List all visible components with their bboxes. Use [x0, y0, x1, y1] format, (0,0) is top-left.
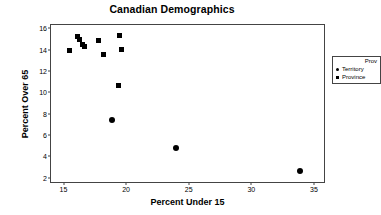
y-axis-tick-label: 10	[17, 89, 51, 96]
x-axis-tick-label: 25	[185, 186, 193, 193]
y-axis-tick-label: 14	[17, 46, 51, 53]
y-axis-tick-label: 2	[17, 174, 51, 181]
chart-title: Canadian Demographics	[0, 3, 344, 15]
data-point-territory	[297, 168, 303, 174]
x-axis-tick-mark	[313, 182, 314, 185]
y-axis-tick-label: 16	[17, 25, 51, 32]
y-axis-tick-label: 8	[17, 110, 51, 117]
legend-title: Prov	[335, 58, 378, 65]
y-axis-tick-mark	[48, 156, 51, 157]
y-axis-tick-mark	[48, 70, 51, 71]
x-axis-tick-mark	[63, 182, 64, 185]
x-axis-tick-label: 35	[310, 186, 318, 193]
legend: Prov Territory Province	[332, 56, 381, 84]
y-axis-tick-label: 12	[17, 67, 51, 74]
legend-label-territory: Territory	[342, 65, 364, 73]
data-point-province	[96, 38, 101, 43]
legend-item-territory[interactable]: Territory	[335, 65, 378, 73]
y-axis-tick-label: 4	[17, 153, 51, 160]
data-point-province	[67, 48, 72, 53]
plot-frame: Prov Territory Province 2468101214161520…	[50, 24, 325, 183]
data-point-territory	[109, 117, 115, 123]
x-axis-tick-label: 30	[247, 186, 255, 193]
square-marker-icon	[336, 76, 339, 79]
x-axis-label: Percent Under 15	[50, 197, 325, 207]
y-axis-tick-mark	[48, 177, 51, 178]
y-axis-tick-mark	[48, 113, 51, 114]
plot-area	[51, 25, 324, 182]
x-axis-tick-mark	[251, 182, 252, 185]
data-point-province	[101, 52, 106, 57]
legend-label-province: Province	[342, 73, 365, 81]
circle-marker-icon	[336, 68, 339, 71]
y-axis-tick-mark	[48, 135, 51, 136]
y-axis-label-text: Percent Over 65	[20, 69, 30, 138]
data-point-territory	[173, 145, 179, 151]
data-point-province	[117, 33, 122, 38]
y-axis-tick-mark	[48, 92, 51, 93]
x-axis-tick-label: 20	[122, 186, 130, 193]
y-axis-tick-mark	[48, 49, 51, 50]
x-axis-tick-mark	[188, 182, 189, 185]
y-axis-tick-mark	[48, 28, 51, 29]
x-axis-tick-mark	[126, 182, 127, 185]
data-point-province	[119, 47, 124, 52]
legend-item-province[interactable]: Province	[335, 73, 378, 81]
data-point-province	[82, 44, 87, 49]
data-point-province	[116, 83, 121, 88]
y-axis-tick-label: 6	[17, 132, 51, 139]
x-axis-tick-label: 15	[60, 186, 68, 193]
